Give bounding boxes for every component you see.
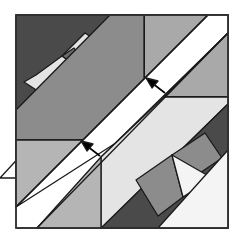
quilt-block-diagram — [0, 0, 246, 229]
